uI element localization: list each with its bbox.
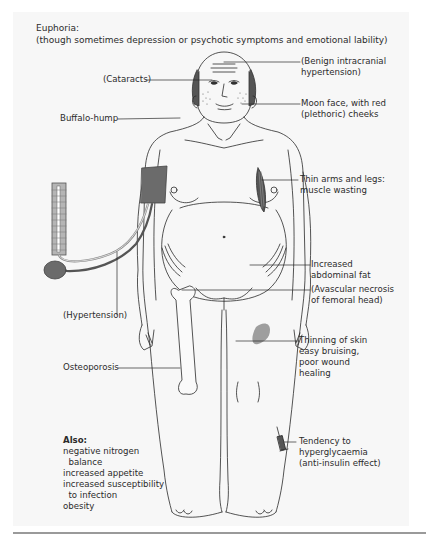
header-title: Euphoria: <box>36 23 79 33</box>
also-items: negative nitrogen balance increased appe… <box>63 446 164 512</box>
header-text: Euphoria: (though sometimes depression o… <box>36 22 388 46</box>
label-avascular-necrosis: (Avascular necrosis of femoral head) <box>311 284 394 306</box>
label-osteoporosis: Osteoporosis <box>63 362 119 373</box>
label-moon-face: Moon face, with red (plethoric) cheeks <box>301 98 386 120</box>
syringe-icon <box>277 427 288 451</box>
label-hypertension: (Hypertension) <box>63 310 127 321</box>
label-cataracts: (Cataracts) <box>103 74 151 85</box>
header-subtitle: (though sometimes depression or psychoti… <box>36 35 388 45</box>
also-section: Also:negative nitrogen balance increased… <box>63 435 164 512</box>
head <box>192 52 256 123</box>
label-buffalo-hump: Buffalo-hump <box>60 113 118 124</box>
also-title: Also: <box>63 435 164 446</box>
label-thinning-of-skin: Thinning of skin easy bruising, poor wou… <box>299 335 367 379</box>
thin-arm-muscle <box>256 168 265 212</box>
sphygmomanometer <box>44 166 167 279</box>
label-hyperglycaemia: Tendency to hyperglycaemia (anti-insulin… <box>299 436 381 469</box>
label-thin-arms: Thin arms and legs: muscle wasting <box>300 174 385 196</box>
label-abdominal-fat: Increased abdominal fat <box>311 259 371 281</box>
label-benign-intracranial-hypertension: (Benign intracranial hypertension) <box>301 56 386 78</box>
bottom-divider <box>13 532 426 534</box>
